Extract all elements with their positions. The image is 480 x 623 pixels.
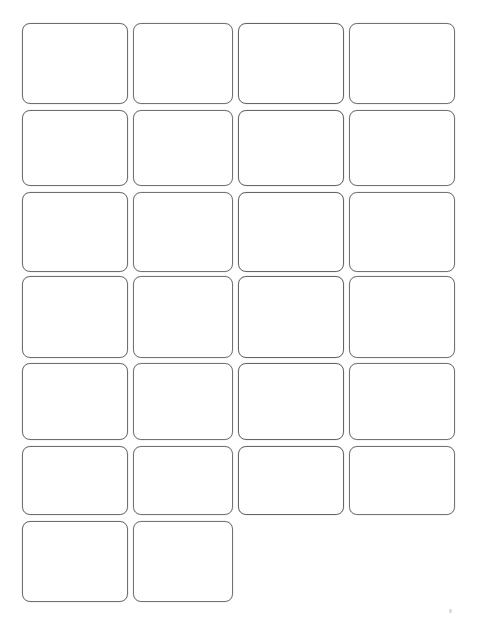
card-row-7	[0, 521, 480, 602]
card-cell[interactable]	[238, 363, 344, 440]
card-row-4	[0, 276, 480, 358]
scan-speck-artifact	[449, 609, 452, 613]
card-cell[interactable]	[22, 192, 128, 272]
card-sheet-page	[0, 0, 480, 623]
card-cell[interactable]	[22, 23, 128, 104]
card-cell[interactable]	[349, 23, 455, 104]
card-cell[interactable]	[133, 23, 233, 104]
card-cell[interactable]	[349, 110, 455, 186]
card-cell[interactable]	[349, 363, 455, 440]
card-cell[interactable]	[238, 23, 344, 104]
card-cell[interactable]	[22, 363, 128, 440]
card-cell[interactable]	[22, 446, 128, 515]
card-cell[interactable]	[22, 276, 128, 358]
card-cell[interactable]	[349, 446, 455, 515]
card-cell[interactable]	[133, 446, 233, 515]
card-cell[interactable]	[238, 276, 344, 358]
card-cell[interactable]	[238, 110, 344, 186]
card-row-3	[0, 192, 480, 272]
card-cell[interactable]	[349, 276, 455, 358]
card-cell[interactable]	[133, 521, 233, 602]
card-cell[interactable]	[349, 192, 455, 272]
card-row-2	[0, 110, 480, 186]
card-cell[interactable]	[22, 110, 128, 186]
card-cell[interactable]	[133, 110, 233, 186]
card-cell[interactable]	[133, 363, 233, 440]
card-row-6	[0, 446, 480, 515]
card-cell[interactable]	[238, 446, 344, 515]
card-row-1	[0, 23, 480, 104]
card-cell[interactable]	[133, 192, 233, 272]
card-cell[interactable]	[22, 521, 128, 602]
card-cell[interactable]	[133, 276, 233, 358]
card-cell[interactable]	[238, 192, 344, 272]
card-row-5	[0, 363, 480, 440]
